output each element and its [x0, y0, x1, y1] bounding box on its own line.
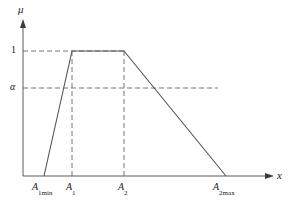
y-axis [20, 19, 26, 176]
membership-function-plot [0, 0, 290, 208]
x-axis-arrow-icon [265, 173, 274, 179]
y-tick-label-alpha: α [10, 82, 15, 92]
x-tick-label-a1: A1 [66, 182, 76, 192]
y-axis-arrow-icon [20, 19, 26, 28]
y-tick-label-one: 1 [11, 45, 16, 55]
x-tick-a1min-sub: 1min [38, 189, 52, 197]
membership-curve [44, 51, 226, 176]
x-axis [23, 173, 274, 179]
x-tick-label-a2: A2 [118, 182, 128, 192]
x-tick-a1-sub: 1 [72, 189, 76, 197]
y-axis-title: μ [18, 4, 24, 15]
x-tick-a2-sub: 2 [124, 189, 128, 197]
x-tick-label-a1min: A1min [32, 182, 53, 192]
x-tick-a2max-sub: 2max [219, 189, 235, 197]
x-tick-label-a2max: A2max [213, 182, 235, 192]
x-axis-title: x [277, 170, 282, 181]
figure-container: μ x 1 α A1min A1 A2 A2max [0, 0, 290, 208]
